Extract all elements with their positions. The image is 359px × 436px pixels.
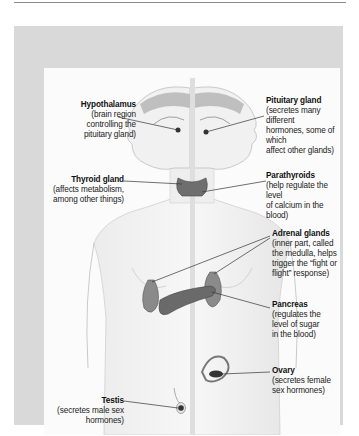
- head-right: [194, 87, 257, 169]
- label-parathyroids: Parathyroids (help regulate the level of…: [266, 171, 340, 221]
- top-rule: [14, 2, 346, 3]
- label-pituitary-gland: Pituitary gland (secretes many different…: [266, 96, 340, 156]
- head-left: [127, 87, 190, 169]
- label-ovary: Ovary (secretes female sex hormones): [272, 366, 340, 396]
- label-thyroid-gland: Thyroid gland (affects metabolism, among…: [46, 175, 124, 205]
- label-adrenal-glands: Adrenal glands (inner part, called the m…: [272, 229, 340, 279]
- figure-frame: Hypothalamus (brain region controlling t…: [14, 26, 343, 425]
- label-testis: Testis (secretes male sex hormones): [48, 396, 124, 426]
- label-hypothalamus: Hypothalamus (brain region controlling t…: [62, 100, 136, 140]
- label-pancreas: Pancreas (regulates the level of sugar i…: [272, 300, 336, 340]
- pituitary-gland: [204, 130, 209, 135]
- figure-panel: Hypothalamus (brain region controlling t…: [44, 68, 340, 435]
- ovary-gland: [209, 371, 223, 378]
- center-divider: [190, 78, 195, 435]
- testis-gland: [178, 405, 184, 411]
